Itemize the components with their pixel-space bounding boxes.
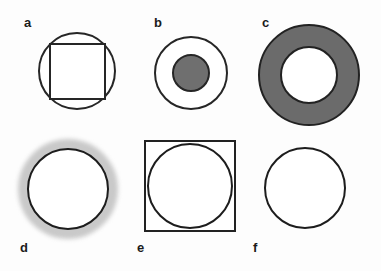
panel-label-d: d xyxy=(20,241,28,254)
circle-shape xyxy=(147,143,233,229)
panel-f-stage xyxy=(264,147,348,231)
panel-c-stage xyxy=(258,24,362,128)
panel-label-e: e xyxy=(137,241,144,254)
square-shape xyxy=(49,43,106,100)
panel-label-f: f xyxy=(253,241,257,254)
circle-shape xyxy=(27,148,109,230)
figure-panel-d: d xyxy=(10,135,130,260)
annulus-inner-circle xyxy=(280,46,338,104)
panel-b-stage xyxy=(154,36,234,116)
circle-shape xyxy=(264,147,346,229)
panel-e-stage xyxy=(144,140,244,240)
figure-panel-e: e xyxy=(128,135,248,260)
figure-panel-f: f xyxy=(244,135,364,260)
panel-label-b: b xyxy=(154,16,162,29)
panel-a-stage xyxy=(38,32,118,112)
circle-shape-inner-gray xyxy=(172,54,210,92)
figure-panel-c: c xyxy=(250,10,370,128)
figure-sheet: a b c d e xyxy=(0,0,381,271)
figure-panel-a: a xyxy=(18,14,133,124)
figure-panel-b: b xyxy=(140,14,250,124)
panel-d-stage xyxy=(18,139,122,243)
panel-label-a: a xyxy=(24,16,31,29)
